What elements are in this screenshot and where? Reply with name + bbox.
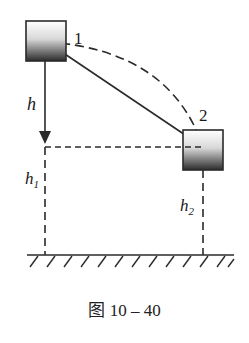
figure-caption: 图 10 – 40 [0, 296, 249, 321]
label-position-1: 1 [74, 29, 83, 48]
connecting-line [47, 42, 203, 147]
label-h2: h2 [180, 196, 195, 217]
label-h: h [27, 94, 36, 114]
ground [27, 255, 234, 267]
arrow-head-icon [39, 131, 51, 144]
block-1 [26, 21, 66, 61]
label-h1: h1 [25, 169, 39, 190]
block-2 [183, 130, 223, 170]
label-position-2: 2 [199, 106, 208, 125]
pendulum-diagram: 1 2 h h1 h2 [0, 0, 249, 343]
